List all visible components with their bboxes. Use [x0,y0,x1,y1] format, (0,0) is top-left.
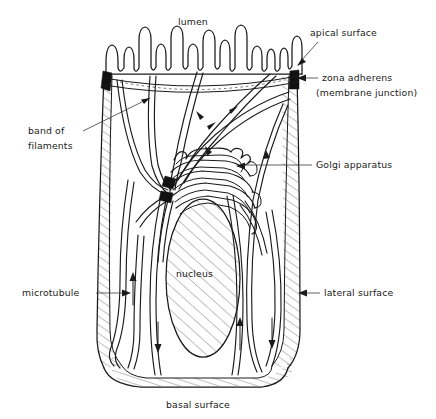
label-basal-surface: basal surface [166,399,230,410]
label-golgi-apparatus: Golgi apparatus [316,159,392,170]
label-zona-adherens: zona adherens [322,72,392,83]
epithelial-cell-diagram: lumen apical surface zona adherens (memb… [0,0,436,419]
lateral-surface-leader [298,290,320,297]
label-band-of-filaments-line1: band of [28,125,65,136]
nucleus-shape [160,195,250,365]
label-band-of-filaments-line2: filaments [28,140,73,151]
apical-surface-leader [297,42,318,66]
zona-adherens-band [101,70,299,92]
label-apical-surface: apical surface [310,27,377,38]
microvilli-brush-border [106,25,302,74]
zona-adherens-leader [297,75,318,82]
label-nucleus: nucleus [176,268,213,279]
label-lumen: lumen [178,16,208,27]
figure-canvas: lumen apical surface zona adherens (memb… [0,0,436,419]
band-of-filaments-leader [83,98,150,131]
label-lateral-surface: lateral surface [324,287,393,298]
label-microtubule: microtubule [22,287,79,298]
label-zona-adherens-sub: (membrane junction) [316,87,417,98]
